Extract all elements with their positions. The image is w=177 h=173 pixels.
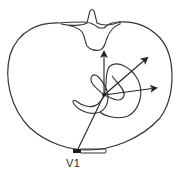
- thorax-diagram: [0, 0, 177, 173]
- thorax-outline: [8, 22, 172, 150]
- vertebra: [61, 10, 120, 51]
- lead-axis-line: [77, 95, 104, 151]
- electrode-label-v1: V1: [66, 157, 80, 169]
- vector-arrow-right: [104, 88, 156, 95]
